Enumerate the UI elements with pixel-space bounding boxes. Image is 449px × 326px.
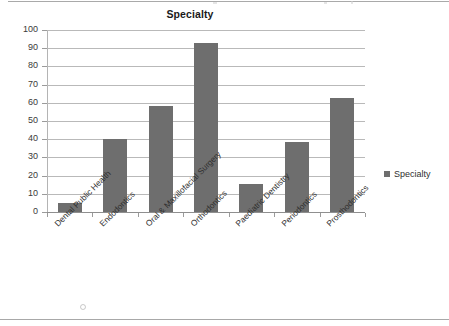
y-axis-label: 10: [4, 188, 38, 198]
y-axis-label: 0: [4, 206, 38, 216]
x-axis-tick: [92, 213, 93, 217]
x-axis-tick: [320, 213, 321, 217]
y-axis-label: 20: [4, 170, 38, 180]
y-axis-label: 80: [4, 60, 38, 70]
x-axis-tick: [365, 213, 366, 217]
y-axis-label: 60: [4, 97, 38, 107]
y-axis-label: 40: [4, 133, 38, 143]
y-axis-label: 50: [4, 115, 38, 125]
y-axis-label: 90: [4, 42, 38, 52]
y-axis-label: 100: [4, 24, 38, 34]
bottom-divider: [0, 319, 449, 320]
x-axis-tick: [229, 213, 230, 217]
y-axis-label: 30: [4, 151, 38, 161]
y-axis-label: 70: [4, 79, 38, 89]
x-axis-tick: [183, 213, 184, 217]
x-axis-tick: [138, 213, 139, 217]
x-axis-tick: [47, 213, 48, 217]
chart-title: Specialty: [0, 8, 380, 20]
bar-chart: Specialty 1009080706050403020100 Dental …: [0, 0, 449, 318]
bar: [194, 43, 218, 212]
square-marker-icon: [384, 171, 390, 177]
chart-screenshot: Specialty 1009080706050403020100 Dental …: [0, 0, 449, 326]
chart-legend: Specialty: [384, 169, 431, 179]
legend-entry-label: Specialty: [394, 169, 431, 179]
x-axis-tick: [274, 213, 275, 217]
